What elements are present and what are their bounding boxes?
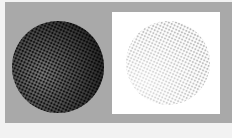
- dark-sphere-panel: [5, 2, 112, 123]
- light-halftone-sphere: [112, 12, 220, 114]
- dark-halftone-sphere: [5, 2, 112, 123]
- light-sphere-panel: [112, 12, 220, 114]
